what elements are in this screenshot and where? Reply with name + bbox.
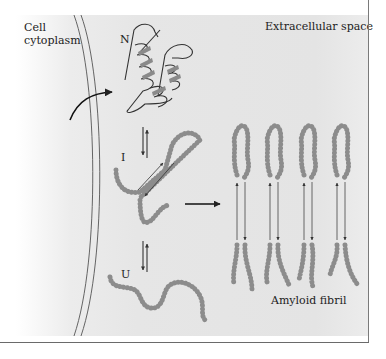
unfolded-bead-chain [110,277,205,320]
cell-cytoplasm-label: Cell cytoplasm [24,21,84,47]
frame-border-bottom [0,342,369,343]
fibril-strand [234,126,252,290]
figure-frame: Cell cytoplasm Extracellular space N I U… [0,0,386,359]
cell-membrane [74,15,100,336]
fibril-strand [330,126,358,285]
extracellular-space-label: Extracellular space [265,20,373,33]
native-protein-structure [125,24,192,112]
intermediate-bead-chain [116,133,200,222]
amyloid-fibril [234,126,358,290]
unfolded-state-label: U [121,268,130,281]
native-state-label: N [120,33,130,46]
fibril-strand [299,126,316,287]
amyloid-fibril-label: Amyloid fibril [271,294,346,307]
fibril-strand [267,126,289,285]
frame-border-right [368,0,369,343]
intermediate-state-label: I [121,151,125,164]
equilibrium-arrows-n-i [143,127,147,158]
equilibrium-arrows-i-u [143,241,147,272]
